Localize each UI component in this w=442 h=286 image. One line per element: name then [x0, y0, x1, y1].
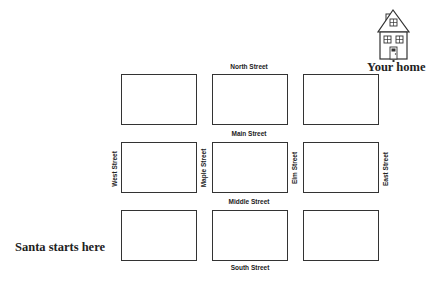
city-block-1-3: [303, 74, 379, 125]
main-street-label: Main Street: [231, 131, 266, 138]
house-icon: [375, 5, 415, 65]
santa-starts-label: Santa starts here: [15, 240, 105, 255]
west-street-label: West Street: [112, 151, 119, 187]
middle-street-label: Middle Street: [229, 199, 270, 206]
south-street-label: South Street: [231, 265, 270, 272]
city-block-3-2: [212, 210, 288, 261]
city-block-1-2: [212, 74, 288, 125]
your-home-label: Your home: [367, 60, 425, 75]
city-block-2-3: [303, 142, 379, 193]
city-block-2-1: [121, 142, 197, 193]
north-street-label: North Street: [230, 64, 268, 71]
maple-street-label: Maple Street: [201, 149, 208, 188]
city-block-2-2: [212, 142, 288, 193]
city-block-3-3: [303, 210, 379, 261]
city-block-3-1: [121, 210, 197, 261]
east-street-label: East Street: [383, 152, 390, 186]
city-block-1-1: [121, 74, 197, 125]
elm-street-label: Elm Street: [292, 152, 299, 184]
